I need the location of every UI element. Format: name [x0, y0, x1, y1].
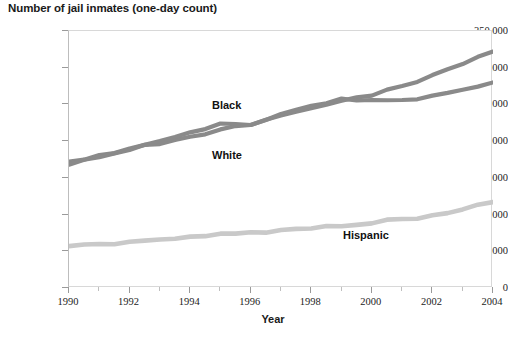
x-tick-label: 1990 — [58, 296, 79, 307]
x-axis-title-text: Year — [261, 313, 284, 325]
x-axis-title: Year — [0, 313, 508, 325]
series-label-hispanic: Hispanic — [343, 229, 389, 241]
series-label-black: Black — [212, 99, 241, 111]
x-tick-label: 2004 — [482, 296, 503, 307]
chart-title: Number of jail inmates (one-day count) — [8, 2, 217, 14]
x-tick-label: 1998 — [300, 296, 321, 307]
series-line-hispanic — [69, 202, 493, 246]
plot-area — [68, 30, 492, 287]
series-lines — [69, 31, 493, 288]
x-tick-label: 2000 — [360, 296, 381, 307]
x-tick-label: 1994 — [179, 296, 200, 307]
series-label-white: White — [212, 149, 242, 161]
series-line-black — [69, 52, 493, 162]
series-line-white — [69, 82, 493, 164]
chart-container: Number of jail inmates (one-day count) 0… — [0, 0, 508, 345]
x-tick-label: 1992 — [118, 296, 139, 307]
x-tick-label: 2002 — [421, 296, 442, 307]
x-tick-label: 1996 — [239, 296, 260, 307]
